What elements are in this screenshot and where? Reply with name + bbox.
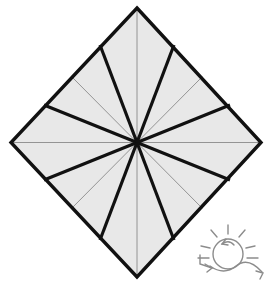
symbol-right-arrow-head bbox=[256, 271, 263, 279]
rotate-and-turn-over-symbol bbox=[192, 222, 268, 284]
symbol-ray-left bbox=[201, 246, 210, 248]
symbol-ray-top-right bbox=[239, 230, 245, 237]
symbol-ray-right bbox=[246, 246, 255, 248]
figure-root bbox=[0, 0, 268, 284]
symbol-left-arrow-head bbox=[205, 264, 212, 272]
symbol-ray-top-left bbox=[211, 230, 217, 237]
